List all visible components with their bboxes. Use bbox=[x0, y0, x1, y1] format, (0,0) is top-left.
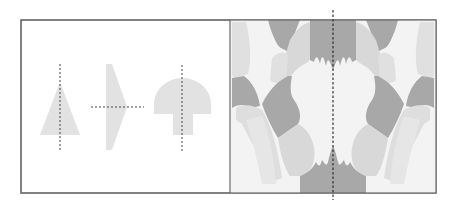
pattern-left-half bbox=[230, 20, 333, 193]
symmetry-figure bbox=[0, 0, 456, 204]
pattern-right-half bbox=[333, 20, 436, 193]
